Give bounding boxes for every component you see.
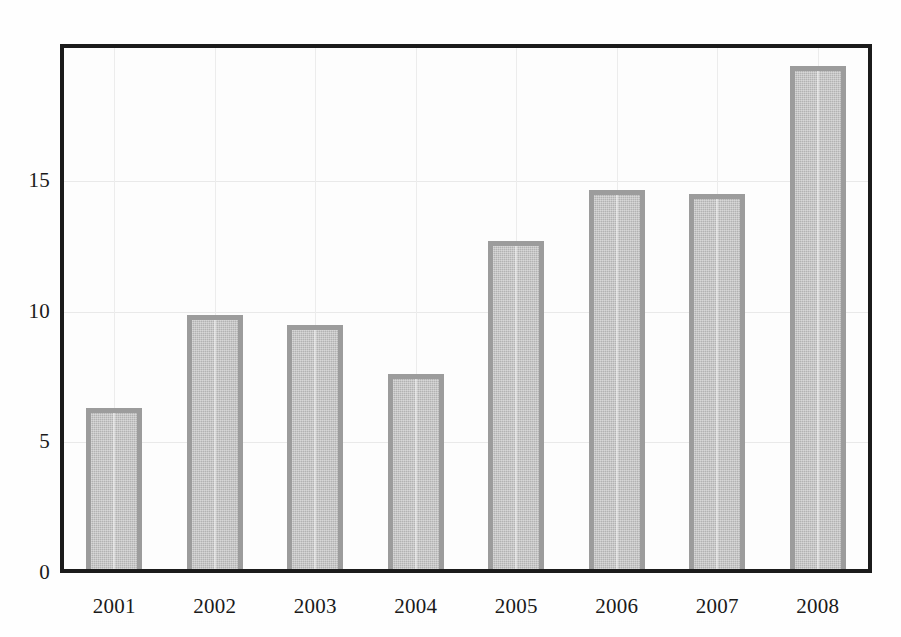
bar-chart: 151050 20012002200320042005200620072008 — [0, 0, 901, 637]
x-axis-tick-label: 2001 — [64, 596, 164, 617]
x-axis-tick-label: 2007 — [667, 596, 767, 617]
x-axis-tick-labels: 20012002200320042005200620072008 — [0, 0, 901, 637]
x-axis-tick-label: 2003 — [265, 596, 365, 617]
x-axis-tick-label: 2004 — [366, 596, 466, 617]
x-axis-tick-label: 2006 — [567, 596, 667, 617]
x-axis-tick-label: 2005 — [466, 596, 566, 617]
x-axis-tick-label: 2002 — [165, 596, 265, 617]
x-axis-tick-label: 2008 — [768, 596, 868, 617]
